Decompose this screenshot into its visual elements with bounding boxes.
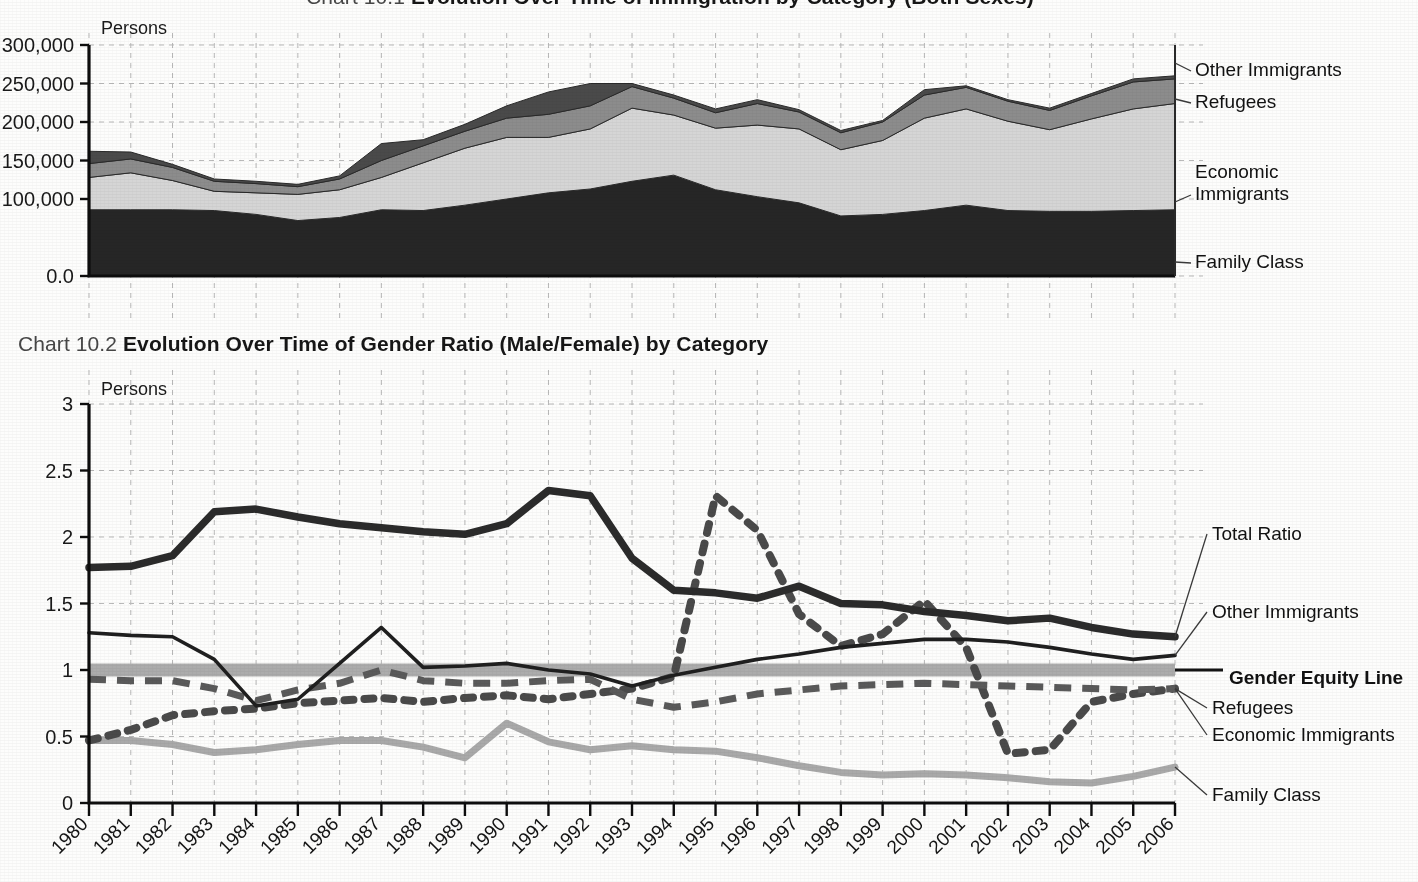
chart-10-2-series-label: Total Ratio — [1212, 523, 1302, 544]
chart-10-1-series-label: Other Immigrants — [1195, 59, 1342, 80]
y-axis-tick-label: 100,000 — [2, 188, 74, 210]
y-axis-tick-label: 150,000 — [2, 150, 74, 172]
series-leader-line — [1175, 63, 1191, 71]
series-leader-line — [1175, 534, 1207, 637]
chart-10-2-canvas: 00.511.522.53Persons19801981198219831984… — [0, 360, 1418, 882]
chart-10-1-series-label: Economic — [1195, 161, 1278, 182]
chart-10-1: 0.0100,000150,000200,000250,000300,000Pe… — [0, 16, 1418, 326]
x-axis-tick-label: 1983 — [172, 813, 217, 858]
x-axis-tick-label: 1997 — [757, 813, 802, 858]
x-axis-tick-label: 2003 — [1008, 813, 1053, 858]
x-axis-tick-label: 1992 — [548, 813, 593, 858]
x-axis-tick-label: 1994 — [632, 813, 677, 858]
x-axis-tick-label: 1996 — [715, 813, 760, 858]
chart-10-2-series-label: Gender Equity Line — [1229, 667, 1403, 688]
y-axis-tick-label: 0.0 — [46, 265, 74, 287]
x-axis-tick-label: 1988 — [381, 813, 426, 858]
x-axis-tick-label: 1985 — [256, 813, 301, 858]
series-leader-line — [1175, 262, 1191, 263]
y-axis-tick-label: 200,000 — [2, 111, 74, 133]
x-axis-tick-label: 2000 — [882, 813, 927, 858]
chart-10-1-canvas: 0.0100,000150,000200,000250,000300,000Pe… — [0, 16, 1418, 326]
chart-10-2-number: Chart 10.2 — [18, 332, 117, 355]
chart-10-1-number: Chart 10.1 — [306, 0, 405, 8]
x-axis-tick-label: 2004 — [1050, 813, 1095, 858]
chart-10-2-series-label: Economic Immigrants — [1212, 724, 1395, 745]
chart-10-1-series-label: Family Class — [1195, 251, 1304, 272]
y-axis-tick-label: 3 — [62, 393, 73, 415]
x-axis-tick-label: 1987 — [339, 813, 384, 858]
chart-10-2-plot: 00.511.522.53Persons19801981198219831984… — [45, 370, 1403, 858]
x-axis-tick-label: 1993 — [590, 813, 635, 858]
x-axis-tick-label: 1986 — [298, 813, 343, 858]
y-axis-tick-label: 300,000 — [2, 34, 74, 56]
x-axis-tick-label: 1982 — [131, 813, 176, 858]
x-axis-tick-label: 1989 — [423, 813, 468, 858]
x-axis-tick-label: 1990 — [465, 813, 510, 858]
document-page: Chart 10.1 Evolution Over Time of Immigr… — [0, 0, 1418, 882]
chart-10-2-title-text: Evolution Over Time of Gender Ratio (Mal… — [123, 332, 768, 355]
chart-10-1-series-label: Immigrants — [1195, 183, 1289, 204]
series-leader-line — [1175, 767, 1207, 795]
x-axis-tick-label: 2006 — [1133, 813, 1178, 858]
chart-10-2: 00.511.522.53Persons19801981198219831984… — [0, 360, 1418, 882]
x-axis-tick-label: 1984 — [214, 813, 259, 858]
chart-10-2-series-label: Other Immigrants — [1212, 601, 1359, 622]
x-axis-tick-label: 1998 — [799, 813, 844, 858]
y-axis-tick-label: 1 — [62, 659, 73, 681]
x-axis-tick-label: 1981 — [89, 813, 134, 858]
series-leader-line — [1175, 612, 1207, 655]
y-axis-tick-label: 0.5 — [45, 726, 73, 748]
chart-10-2-series-label: Family Class — [1212, 784, 1321, 805]
chart-10-2-title: Chart 10.2 Evolution Over Time of Gender… — [18, 332, 768, 356]
y-axis-tick-label: 0 — [62, 792, 73, 814]
x-axis-tick-label: 1991 — [507, 813, 552, 858]
y-axis-tick-label: 2 — [62, 526, 73, 548]
chart-10-1-plot: 0.0100,000150,000200,000250,000300,000Pe… — [2, 18, 1342, 322]
chart-10-1-title-text: Evolution Over Time of Immigration by Ca… — [411, 0, 1034, 8]
y-axis-tick-label: 2.5 — [45, 460, 73, 482]
x-axis-tick-label: 1995 — [674, 813, 719, 858]
y-axis-unit-label: Persons — [101, 18, 167, 38]
y-axis-unit-label: Persons — [101, 379, 167, 399]
x-axis-tick-label: 1980 — [47, 813, 92, 858]
series-leader-line — [1175, 689, 1207, 735]
x-axis-tick-label: 2002 — [966, 813, 1011, 858]
chart-10-1-title: Chart 10.1 Evolution Over Time of Immigr… — [306, 0, 1034, 9]
x-axis-tick-label: 1999 — [841, 813, 886, 858]
series-leader-line — [1175, 99, 1191, 103]
chart-10-1-series-label: Refugees — [1195, 91, 1276, 112]
chart-10-2-series-label: Refugees — [1212, 697, 1293, 718]
x-axis-tick-label: 2005 — [1091, 813, 1136, 858]
y-axis-tick-label: 250,000 — [2, 73, 74, 95]
y-axis-tick-label: 1.5 — [45, 593, 73, 615]
series-leader-line — [1175, 195, 1191, 202]
x-axis-tick-label: 2001 — [924, 813, 969, 858]
series-leader-line — [1175, 689, 1207, 708]
